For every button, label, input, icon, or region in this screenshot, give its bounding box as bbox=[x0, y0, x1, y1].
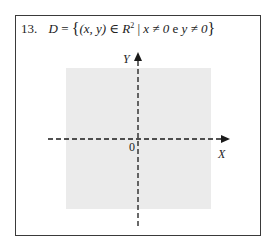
y-axis-label: Y bbox=[123, 52, 130, 67]
x-axis-label: X bbox=[218, 147, 225, 162]
y-axis-arrow-icon bbox=[134, 52, 142, 61]
domain-diagram bbox=[0, 0, 276, 244]
x-axis-arrow-icon bbox=[221, 135, 230, 143]
origin-label: 0 bbox=[129, 140, 135, 155]
